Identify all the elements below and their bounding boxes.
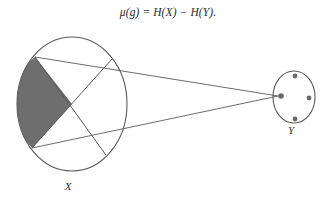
codomain-set-label: Y bbox=[288, 124, 296, 136]
shaded-wedge bbox=[8, 57, 72, 148]
dot-bottom bbox=[293, 117, 298, 122]
figure-root: μ(g) = H(X) − H(Y). X Y bbox=[0, 0, 336, 199]
dot-left bbox=[278, 93, 284, 99]
map-line-upper bbox=[35, 57, 278, 96]
shaded-region-group bbox=[8, 57, 72, 148]
dot-right bbox=[307, 96, 312, 101]
dot-top bbox=[293, 74, 298, 79]
set-mapping-diagram: X Y bbox=[0, 0, 336, 199]
domain-set-label: X bbox=[64, 180, 73, 192]
